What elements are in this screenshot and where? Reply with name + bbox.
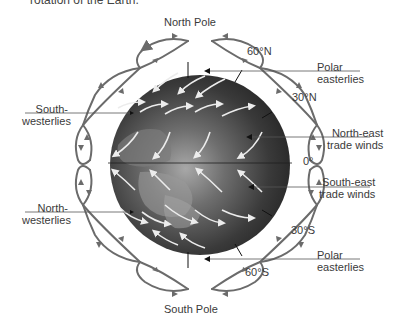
label-line-1: North- [22, 202, 68, 214]
label-line-2: westerlies [22, 115, 68, 127]
label-line-2: easterlies [317, 261, 364, 273]
lat-60n-label: 60°N [247, 45, 272, 57]
polar-easterlies-north-label: Polar easterlies [317, 61, 364, 85]
north-pole-label: North Pole [164, 16, 216, 28]
label-line-2: westerlies [22, 214, 68, 226]
label-line-1: South- [22, 103, 68, 115]
label-line-2: trade winds [319, 188, 375, 200]
label-line-1: Polar [317, 61, 364, 73]
label-line-2: easterlies [317, 73, 364, 85]
south-westerlies-label: South- westerlies [22, 103, 68, 127]
atmospheric-circulation-diagram [0, 0, 396, 326]
label-line-1: South-east [319, 176, 375, 188]
lat-60s-label: 60°S [245, 266, 269, 278]
ne-trade-winds-label: North-east trade winds [327, 127, 383, 151]
label-line-1: North-east [327, 127, 383, 139]
lat-30n-label: 30°N [292, 91, 317, 103]
lat-30s-label: 30°S [291, 224, 315, 236]
label-line-2: trade winds [327, 139, 383, 151]
lat-equator-label: 0° [303, 155, 314, 167]
polar-easterlies-south-label: Polar easterlies [317, 249, 364, 273]
se-trade-winds-label: South-east trade winds [319, 176, 375, 200]
south-pole-label: South Pole [164, 303, 218, 315]
north-westerlies-label: North- westerlies [22, 202, 68, 226]
label-line-1: Polar [317, 249, 364, 261]
